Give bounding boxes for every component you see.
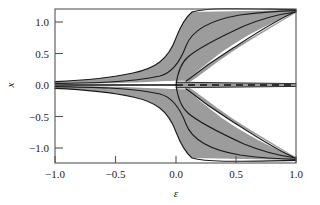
x-tick-label-0.5: 0.5 — [229, 168, 243, 180]
y-tick-label-1.0: 1.0 — [35, 16, 49, 28]
x-tick-label--1.0: −1.0 — [45, 168, 65, 180]
y-tick-label-0.0: 0.0 — [35, 79, 49, 91]
x-tick-labels: −1.0 −0.5 0.0 0.5 1.0 — [45, 168, 303, 180]
x-axis-label: ε — [174, 187, 179, 199]
chart-canvas: −1.0 −0.5 0.0 0.5 1.0 1.0 0.5 0.0 −0.5 −… — [0, 0, 320, 205]
y-axis-ticks — [55, 22, 63, 148]
bifurcation-diagram-figure: −1.0 −0.5 0.0 0.5 1.0 1.0 0.5 0.0 −0.5 −… — [0, 0, 320, 205]
x-tick-label--0.5: −0.5 — [106, 168, 126, 180]
y-tick-label-0.5: 0.5 — [35, 48, 49, 60]
y-tick-label--1.0: −1.0 — [29, 142, 49, 154]
y-axis-label: x — [4, 82, 16, 88]
y-tick-labels: 1.0 0.5 0.0 −0.5 −1.0 — [29, 16, 49, 154]
y-tick-label--0.5: −0.5 — [29, 111, 49, 123]
x-tick-label-0.0: 0.0 — [169, 168, 183, 180]
x-tick-label-1.0: 1.0 — [289, 168, 303, 180]
